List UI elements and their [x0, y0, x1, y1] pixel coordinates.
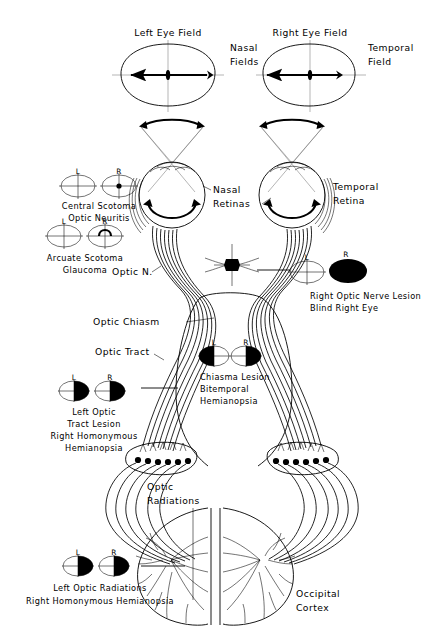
lesion-central-scotoma: L R Central Scotoma Optic Neuritis: [59, 167, 138, 222]
chiasm-cross-fiber-4: [236, 265, 259, 272]
ron-caption-2: Blind Right Eye: [310, 303, 378, 313]
right-retina-arrow-2: [312, 199, 322, 207]
figure-canvas: Left Eye Field Nasal Fields Right Eye Fi…: [0, 0, 421, 636]
lgn-knob-l2: [145, 458, 151, 464]
occipital-cortex-label-line1: Occipital: [296, 588, 340, 599]
lot-caption-4: Hemianopsia: [65, 443, 123, 453]
optic-nerve-label: Optic N.: [112, 266, 153, 277]
lot-caption-1: Left Optic: [72, 407, 116, 417]
lgn-knob-r1: [323, 457, 329, 463]
left-ray-d: [172, 127, 203, 163]
lgn-knob-l5: [175, 459, 181, 465]
nasal-retinas-label-line2: Retinas: [213, 198, 250, 209]
right-eye-field-heading: Right Eye Field: [273, 27, 348, 38]
optic-radiations-label-line2: Radiations: [147, 495, 200, 506]
left-field-fixation-mark: [166, 70, 170, 80]
left-fiber-2: [148, 228, 195, 446]
right-eye-field-group: Right Eye Field Temporal Field: [256, 27, 414, 113]
optic-nerve-leader: [152, 266, 161, 272]
arcuate-left-mark: L: [62, 217, 67, 226]
left-fiber-7: [173, 229, 216, 451]
lor-caption-1: Left Optic Radiations: [53, 583, 147, 593]
lgn-knob-l3: [155, 459, 161, 465]
temporal-field-label-line2: Field: [368, 56, 391, 67]
left-projection-group: [139, 120, 205, 192]
retina-label-group: Nasal Retinas Temporal Retina: [203, 181, 379, 209]
lot-right-plot: [94, 380, 126, 402]
right-ray-d: [292, 127, 323, 163]
chiasm-cross-fiber-2: [205, 265, 228, 272]
gyrus-r5: [227, 560, 260, 610]
left-retina-arrow-2: [192, 199, 202, 207]
right-ray-c: [261, 127, 292, 163]
right-field-fixation-mark: [308, 70, 312, 80]
left-lens: [160, 166, 185, 170]
gyrus-r8: [265, 566, 284, 596]
chiasma-caption-3: Hemianopsia: [200, 396, 258, 406]
lot-caption-2: Tract Lesion: [66, 419, 121, 429]
optic-tract-leader: [154, 354, 164, 360]
lesion-chiasma: L R Chiasma Lesion Bitemporal Hemianopsi…: [198, 338, 270, 405]
right-retina-arc: [268, 203, 316, 218]
ron-caption-1: Right Optic Nerve Lesion: [310, 291, 421, 301]
left-arc-arrow-left: [139, 121, 148, 129]
central-scotoma-left-plot: [59, 173, 97, 199]
central-scotoma-caption-2: Optic Neuritis: [68, 213, 130, 223]
gyrus-l1: [171, 537, 208, 560]
cs-right-central-dot: [116, 183, 121, 188]
gyrus-l2: [171, 553, 208, 560]
chiasm-center-blob: [224, 259, 240, 271]
lgn-knob-r3: [303, 459, 309, 465]
arcuate-right-plot: [86, 223, 124, 249]
temporal-retina-label-line1: Temporal: [332, 181, 379, 192]
ron-right-plot: [329, 259, 367, 283]
left-field-arc: [144, 120, 200, 125]
right-fiber-4: [261, 230, 306, 448]
sulcus-l5: [186, 604, 188, 623]
lot-left-plot: [58, 380, 90, 402]
right-fiber-7: [248, 229, 291, 451]
lgn-knob-l6: [185, 458, 191, 464]
arcuate-caption-1: Arcuate Scotoma: [47, 253, 123, 263]
lot-left-mark: L: [72, 373, 77, 382]
right-rad-6: [269, 464, 304, 559]
lesion-left-optic-radiations: L R Left Optic Radiations Right Homonymo…: [26, 548, 185, 605]
occipital-cortex-label-line2: Cortex: [296, 602, 329, 613]
left-eye-field-group: Left Eye Field Nasal Fields: [112, 27, 259, 113]
sulcus-r3: [279, 574, 293, 584]
temporal-field-label-line1: Temporal: [367, 42, 414, 53]
nasal-retinas-label-line1: Nasal: [213, 184, 241, 195]
right-rad-3: [284, 465, 338, 562]
ron-right-mark: R: [343, 250, 348, 259]
left-arc-arrow-right: [197, 121, 206, 129]
left-ray-c: [141, 127, 172, 163]
central-scotoma-caption-1: Central Scotoma: [62, 201, 136, 211]
ron-left-mark: L: [305, 253, 310, 262]
left-eyeball: [129, 162, 205, 233]
optic-radiations-label-line1: Optic: [147, 481, 174, 492]
gyrus-l8: [147, 566, 166, 596]
gyrus-r1: [223, 537, 260, 560]
nasal-fields-label-line2: Fields: [230, 56, 259, 67]
left-retina-arc: [148, 203, 196, 218]
chiasma-caption-2: Bitemporal: [200, 384, 249, 394]
gyrus-r2: [223, 553, 260, 560]
occipital-left-outline: [138, 508, 208, 625]
gyrus-r4: [223, 560, 260, 592]
ron-right-full-black: [329, 259, 367, 283]
lgn-knob-r5: [283, 459, 289, 465]
lor-right-plot: [98, 555, 130, 577]
right-arc-arrow-left: [259, 121, 268, 129]
lor-left-mark: L: [76, 548, 81, 557]
temporal-retina-label-line2: Retina: [333, 195, 365, 206]
optic-tract-label: Optic Tract: [95, 346, 149, 357]
sulcus-r5: [243, 604, 245, 623]
right-fiber-1: [273, 226, 321, 445]
lgn-knob-r2: [313, 458, 319, 464]
lgn-knob-r6: [273, 458, 279, 464]
gyrus-l4: [171, 560, 208, 592]
right-lgn-group: [267, 442, 358, 564]
left-retina-arrow: [143, 199, 153, 207]
lor-caption-2: Right Homonymous Hemianopsia: [26, 596, 174, 606]
occipital-right-gyri: [223, 533, 295, 623]
